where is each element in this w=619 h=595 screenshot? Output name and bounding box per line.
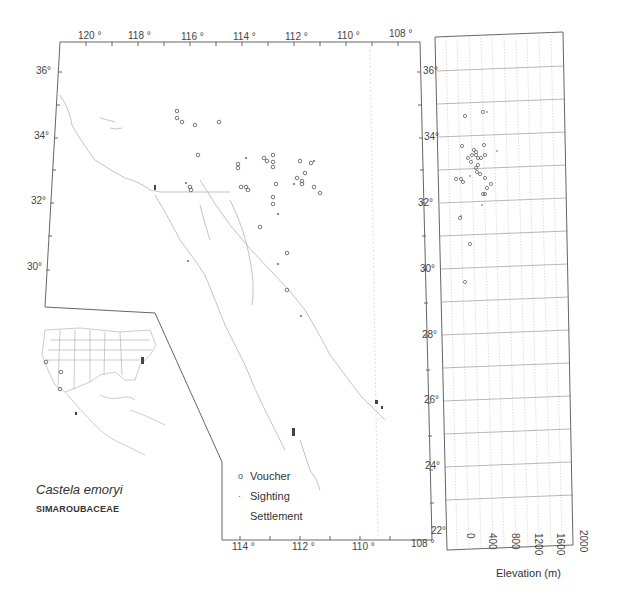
coastline — [60, 95, 385, 490]
legend-sighting: Sighting — [250, 490, 290, 502]
legend-voucher: Voucher — [250, 470, 290, 482]
lon-label-top: 114 ° — [233, 31, 256, 42]
lon-label-bottom: 108 ° — [411, 538, 434, 549]
lat-label-right: 36° — [423, 65, 438, 76]
elevation-grid — [446, 32, 562, 550]
lon-label-bottom: 110 ° — [352, 541, 375, 552]
lat-label-left: 34° — [34, 130, 49, 141]
voucher-markers — [175, 109, 322, 292]
lon-label-top: 120 ° — [78, 30, 101, 41]
lat-label-left: 32° — [31, 195, 46, 206]
elevation-axis-title: Elevation (m) — [496, 567, 561, 579]
lat-label-right: 28° — [422, 329, 437, 340]
species-name: Castela emoryi — [36, 482, 123, 497]
voucher-icon: o — [238, 471, 243, 481]
elevation-tick: 800 — [510, 533, 521, 550]
lat-label-right: 34° — [424, 131, 439, 142]
lat-label-right: 32° — [418, 197, 433, 208]
lat-label-left: 36° — [36, 65, 51, 76]
lat-label-right: 22° — [431, 525, 446, 536]
inset-map — [42, 328, 165, 455]
inset-markers — [44, 360, 63, 391]
legend-settlement: Settlement — [250, 510, 303, 522]
family-name: SIMAROUBACEAE — [36, 504, 119, 514]
lon-label-top: 116 ° — [181, 31, 204, 42]
lat-label-right: 24° — [425, 460, 440, 471]
elevation-tick: 2000 — [578, 530, 589, 552]
lon-label-bottom: 112 ° — [292, 541, 315, 552]
lat-label-right: 30° — [420, 263, 435, 274]
sighting-markers — [185, 157, 315, 317]
elevation-panel-frame — [435, 32, 573, 550]
lon-label-top: 110 ° — [337, 30, 360, 41]
lat-label-left: 30° — [27, 261, 42, 272]
lon-label-bottom: 114 ° — [232, 541, 255, 552]
lon-label-top: 118 ° — [128, 30, 151, 41]
elevation-tick: 1600 — [555, 533, 566, 555]
elevation-tick: 0 — [465, 533, 476, 539]
sighting-icon: · — [238, 491, 241, 501]
elevation-tick: 400 — [487, 533, 498, 550]
lat-label-right: 26° — [424, 394, 439, 405]
lon-label-top: 112 ° — [285, 31, 308, 42]
lon-label-top: 108 ° — [389, 28, 412, 39]
elevation-tick: 1200 — [533, 533, 544, 555]
